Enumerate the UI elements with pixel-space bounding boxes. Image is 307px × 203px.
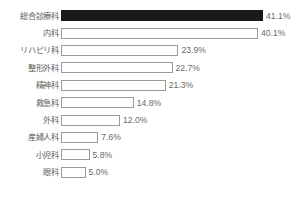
bar-track: 7.6% xyxy=(61,129,307,146)
bar-row: 内科 40.1% xyxy=(0,24,307,41)
bar-row: 総合診療科 41.1% xyxy=(0,7,307,24)
category-label: 小児科 xyxy=(0,150,61,160)
category-label: 眼科 xyxy=(0,167,61,177)
category-label: 産婦人科 xyxy=(0,132,61,142)
category-label: 精神科 xyxy=(0,80,61,90)
chart-plot-area: 総合診療科 41.1% 内科 40.1% リハビリ科 23.9% 整形外科 xyxy=(0,7,307,187)
value-label: 22.7% xyxy=(173,63,200,73)
bar-row: 眼科 5.0% xyxy=(0,164,307,181)
value-label: 21.3% xyxy=(166,80,193,90)
bar[interactable] xyxy=(61,149,90,160)
bar-row: 救急科 14.8% xyxy=(0,94,307,111)
bar-track: 41.1% xyxy=(61,7,307,24)
bar[interactable] xyxy=(61,97,134,108)
value-label: 5.8% xyxy=(90,150,113,160)
category-label: 救急科 xyxy=(0,98,61,108)
value-label: 23.9% xyxy=(178,45,205,55)
bar[interactable] xyxy=(61,132,98,143)
bar-track: 40.1% xyxy=(61,24,307,41)
bar-chart: 総合診療科 41.1% 内科 40.1% リハビリ科 23.9% 整形外科 xyxy=(0,0,307,203)
value-label: 40.1% xyxy=(258,28,285,38)
bar-row: 精神科 21.3% xyxy=(0,77,307,94)
bar-track: 23.9% xyxy=(61,42,307,59)
bar-row: 小児科 5.8% xyxy=(0,146,307,163)
bar-track: 12.0% xyxy=(61,111,307,128)
category-label: 外科 xyxy=(0,115,61,125)
value-label: 7.6% xyxy=(98,132,121,142)
bar[interactable] xyxy=(61,115,120,126)
bar[interactable] xyxy=(61,28,258,39)
category-label: 整形外科 xyxy=(0,63,61,73)
bar-track: 5.0% xyxy=(61,164,307,181)
value-label: 5.0% xyxy=(86,167,109,177)
bar-row: 産婦人科 7.6% xyxy=(0,129,307,146)
footnote-text xyxy=(60,194,307,203)
bar-row: 外科 12.0% xyxy=(0,111,307,128)
bar[interactable] xyxy=(61,80,166,91)
value-label: 14.8% xyxy=(134,98,161,108)
bar-track: 22.7% xyxy=(61,59,307,76)
bar[interactable] xyxy=(61,10,263,21)
bar[interactable] xyxy=(61,167,86,178)
bar-track: 5.8% xyxy=(61,146,307,163)
bar-row: 整形外科 22.7% xyxy=(0,59,307,76)
bar-track: 14.8% xyxy=(61,94,307,111)
category-label: 内科 xyxy=(0,28,61,38)
value-label: 41.1% xyxy=(263,11,290,21)
category-label: 総合診療科 xyxy=(0,11,61,21)
bar-row: リハビリ科 23.9% xyxy=(0,42,307,59)
bar[interactable] xyxy=(61,62,173,73)
value-label: 12.0% xyxy=(120,115,147,125)
category-label: リハビリ科 xyxy=(0,45,61,55)
bar-track: 21.3% xyxy=(61,77,307,94)
bar[interactable] xyxy=(61,45,178,56)
